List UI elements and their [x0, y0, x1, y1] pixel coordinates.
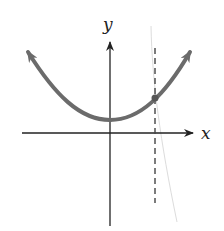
intersection-point — [152, 95, 159, 102]
parabola-curve-left — [28, 52, 110, 120]
parabola-graph: y x — [0, 0, 224, 231]
y-axis-label: y — [102, 14, 113, 34]
x-axis-label: x — [201, 123, 211, 143]
parabola-curve-right — [110, 52, 190, 120]
